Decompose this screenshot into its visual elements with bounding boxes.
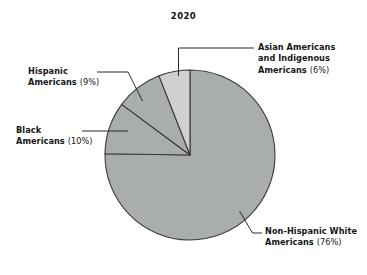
callout-white-percent: (76%) (317, 237, 342, 247)
callout-black-percent: (10%) (68, 136, 93, 146)
callout-black-line2: Americans (16, 136, 68, 146)
callout-label-asian-indigenous-americans[interactable]: Asian Americans and Indigenous Americans… (258, 42, 364, 76)
callout-asian-line3-wrap: Americans (6%) (258, 65, 364, 76)
callout-hispanic-line1: Hispanic (28, 66, 132, 77)
callout-asian-percent: (6%) (310, 65, 330, 75)
callout-black-line1: Black (16, 125, 120, 136)
callout-asian-line1: Asian Americans (258, 42, 364, 53)
callout-white-line2: Americans (265, 237, 317, 247)
callout-hispanic-line2-wrap: Americans (9%) (28, 77, 132, 88)
callout-label-black-americans[interactable]: Black Americans (10%) (16, 125, 120, 148)
callout-white-line1: Non-Hispanic White (265, 226, 365, 237)
callout-asian-line2: and Indigenous (258, 53, 364, 64)
callout-black-line2-wrap: Americans (10%) (16, 136, 120, 147)
callout-label-hispanic-americans[interactable]: Hispanic Americans (9%) (28, 66, 132, 89)
pie-chart-figure: 2020 Asian Americans and Indigenous Amer… (0, 0, 367, 275)
callout-hispanic-line2: Americans (28, 77, 80, 87)
callout-asian-line3: Americans (258, 65, 310, 75)
callout-label-non-hispanic-white-americans[interactable]: Non-Hispanic White Americans (76%) (265, 226, 365, 249)
callout-white-line2-wrap: Americans (76%) (265, 237, 365, 248)
callout-hispanic-percent: (9%) (80, 77, 100, 87)
